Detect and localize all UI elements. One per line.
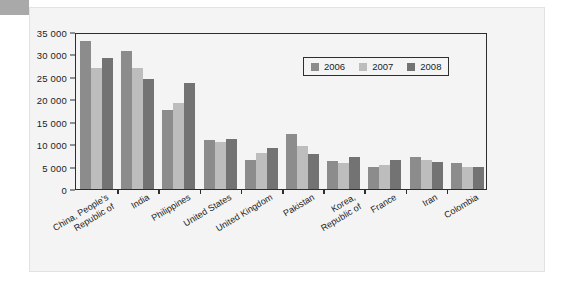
bar-2006 [451, 163, 462, 189]
bar-2006 [121, 51, 132, 189]
y-axis-tick-label: 30 000 [37, 50, 67, 61]
bar-2007 [338, 163, 349, 189]
bar-2006 [80, 41, 91, 189]
bar-2006 [286, 134, 297, 189]
bar-2006 [245, 160, 256, 189]
x-axis-label-line: Colombia [443, 192, 481, 221]
y-axis: 05 00010 00015 00020 00025 00030 00035 0… [0, 33, 75, 190]
x-axis-labels: China, People'sRepublic ofIndiaPhilippin… [75, 192, 487, 272]
bar-chart: 05 00010 00015 00020 00025 00030 00035 0… [0, 0, 569, 288]
x-axis-label: Colombia [443, 192, 481, 221]
y-axis-tick-label: 10 000 [37, 140, 67, 151]
bar-2008 [473, 167, 484, 189]
legend-label: 2006 [324, 61, 345, 72]
bar-2008 [432, 162, 443, 189]
x-axis-label: India [129, 192, 151, 211]
bar-2008 [349, 157, 360, 189]
bar-group [241, 34, 282, 189]
x-axis-label: China, People'sRepublic of [51, 192, 116, 243]
legend-swatch-icon [311, 63, 319, 71]
bar-2007 [297, 146, 308, 189]
bar-2007 [462, 167, 473, 189]
bar-group [117, 34, 158, 189]
legend-label: 2007 [372, 61, 393, 72]
x-axis-label-line: India [129, 192, 151, 211]
bar-2006 [410, 157, 421, 189]
bar-2007 [421, 160, 432, 189]
chart-legend: 200620072008 [303, 57, 449, 76]
legend-item-2008: 2008 [407, 61, 441, 72]
bar-group [447, 34, 488, 189]
legend-swatch-icon [359, 63, 367, 71]
bar-2008 [390, 160, 401, 189]
bar-2008 [102, 58, 113, 189]
bar-2007 [215, 142, 226, 189]
bar-2007 [132, 68, 143, 189]
bar-2008 [143, 79, 154, 189]
x-axis-label: Korea,Republic of [313, 192, 363, 234]
y-axis-tick-label: 35 000 [37, 28, 67, 39]
y-axis-tick-label: 20 000 [37, 95, 67, 106]
bar-group [158, 34, 199, 189]
bar-2008 [226, 139, 237, 189]
bar-2006 [162, 110, 173, 189]
y-axis-tick-label: 0 [62, 185, 67, 196]
x-axis-label: Pakistan [281, 192, 316, 219]
bar-2007 [379, 165, 390, 189]
bar-2006 [368, 167, 379, 189]
bar-group [76, 34, 117, 189]
x-axis-label: Iran [421, 192, 440, 209]
x-axis-label-line: France [369, 192, 399, 216]
legend-item-2006: 2006 [311, 61, 345, 72]
legend-item-2007: 2007 [359, 61, 393, 72]
bar-group [200, 34, 241, 189]
bar-2008 [308, 154, 319, 189]
bar-2007 [91, 68, 102, 189]
y-axis-tick-label: 15 000 [37, 117, 67, 128]
legend-swatch-icon [407, 63, 415, 71]
y-axis-tick-label: 25 000 [37, 72, 67, 83]
bar-2007 [173, 103, 184, 189]
bar-2008 [267, 148, 278, 189]
bar-2006 [327, 161, 338, 189]
x-axis-label-line: Iran [421, 192, 440, 209]
y-axis-tick-label: 5 000 [42, 162, 67, 173]
x-axis-label-line: Pakistan [281, 192, 316, 219]
bar-2006 [204, 140, 215, 189]
x-axis-label: France [369, 192, 399, 216]
legend-label: 2008 [420, 61, 441, 72]
bar-2007 [256, 153, 267, 189]
bar-2008 [184, 83, 195, 189]
